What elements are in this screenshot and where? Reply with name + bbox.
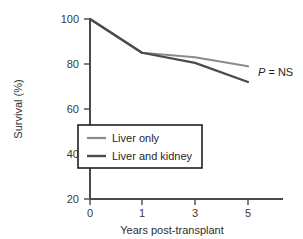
survival-chart: 100 80 60 40 20 0 1 3 5 Years post-trans… (0, 0, 303, 239)
p-value-annotation: P = NS (258, 66, 293, 78)
y-tick-label-60: 60 (67, 103, 79, 115)
p-value-rest: = NS (265, 66, 293, 78)
series-group (90, 19, 248, 82)
chart-canvas: 100 80 60 40 20 0 1 3 5 Years post-trans… (0, 0, 303, 239)
y-axis-title: Survival (%) (12, 79, 24, 138)
series-line-liver-and-kidney (90, 19, 248, 82)
y-tick-label-80: 80 (67, 58, 79, 70)
y-tick-label-100: 100 (61, 13, 79, 25)
axes-group (84, 19, 283, 205)
y-tick-label-40: 40 (67, 148, 79, 160)
x-axis-title: Years post-transplant (120, 224, 224, 236)
y-tick-labels: 100 80 60 40 20 (61, 13, 79, 205)
legend: Liver only Liver and kidney (78, 125, 202, 168)
legend-label-liver-only: Liver only (112, 132, 160, 144)
x-tick-label-1: 1 (139, 207, 145, 219)
x-tick-labels: 0 1 3 5 (87, 207, 251, 219)
y-tick-label-20: 20 (67, 193, 79, 205)
x-tick-label-0: 0 (87, 207, 93, 219)
x-tick-label-5: 5 (245, 207, 251, 219)
legend-label-liver-and-kidney: Liver and kidney (112, 150, 193, 162)
x-tick-label-3: 3 (192, 207, 198, 219)
series-line-liver-only (90, 19, 248, 66)
